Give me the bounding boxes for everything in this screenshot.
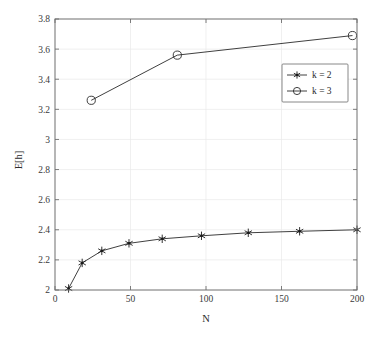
x-tick-label: 200 [350,294,365,304]
y-tick-label: 2.2 [38,255,50,265]
y-tick-label: 2 [45,285,50,295]
legend-label: k = 2 [312,70,332,80]
gridlines-group [55,19,357,290]
series-1 [65,226,361,293]
tick-labels-group: 22.22.42.62.833.23.43.63.8050100150200 [38,14,364,304]
y-tick-label: 3 [45,135,50,145]
chart-plot: 22.22.42.62.833.23.43.63.8050100150200 N… [0,0,381,339]
y-tick-label: 3.4 [38,75,50,85]
y-tick-label: 3.2 [38,105,50,115]
legend-label: k = 3 [312,86,332,96]
x-tick-label: 0 [53,294,58,304]
y-tick-label: 2.6 [38,195,50,205]
marker-star-icon [65,284,72,292]
marker-star-icon [98,247,105,255]
x-tick-label: 150 [274,294,289,304]
x-tick-label: 100 [199,294,214,304]
y-tick-label: 3.6 [38,45,50,55]
y-tick-label: 3.8 [38,14,50,24]
figure-canvas: 22.22.42.62.833.23.43.63.8050100150200 N… [0,0,381,339]
y-axis-title: E[h] [13,151,24,170]
series-line [69,230,357,289]
y-tick-label: 2.8 [38,165,50,175]
x-axis-title: N [202,313,210,324]
legend[interactable]: k = 2k = 3 [282,64,348,102]
x-tick-label: 50 [126,294,136,304]
y-tick-label: 2.4 [38,225,50,235]
